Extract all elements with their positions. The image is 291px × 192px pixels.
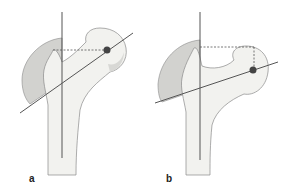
- head-center-dot-b: [250, 67, 257, 74]
- panel-label-b: b: [166, 173, 172, 184]
- panel-a: [20, 12, 133, 175]
- femur-diagram: [0, 0, 291, 192]
- panel-b: [155, 12, 278, 175]
- panel-label-a: a: [29, 173, 35, 184]
- head-center-dot-a: [104, 47, 111, 54]
- femur-shaft-b: [181, 46, 268, 175]
